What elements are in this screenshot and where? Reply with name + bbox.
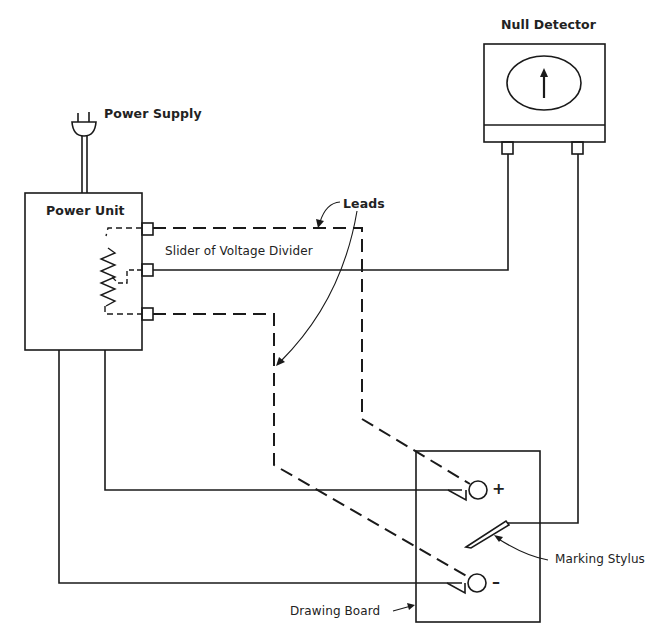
label-marking-stylus: Marking Stylus	[555, 552, 645, 566]
label-drawing-board: Drawing Board	[290, 604, 380, 618]
null-detector	[484, 44, 605, 154]
marking-stylus-icon	[466, 521, 509, 548]
detector-right-terminal	[572, 142, 583, 154]
minus-terminal	[468, 574, 486, 592]
label-leads: Leads	[343, 196, 385, 211]
voltage-divider-resistor	[101, 228, 142, 314]
detector-left-terminal	[502, 142, 513, 154]
lead-bottom-to-minus	[153, 314, 470, 578]
circuit-diagram	[0, 0, 665, 636]
leads-dashed	[153, 228, 470, 578]
label-power-supply: Power Supply	[104, 106, 202, 121]
plus-clip	[448, 490, 466, 500]
label-null-detector: Null Detector	[501, 17, 596, 32]
lead-top-to-plus	[153, 228, 470, 484]
detector-to-stylus-wire	[508, 154, 578, 523]
minus-sign: –	[492, 572, 500, 591]
drawing-board-box	[416, 451, 540, 622]
wire-to-minus	[59, 350, 462, 583]
label-power-unit: Power Unit	[46, 203, 125, 218]
terminal-slider	[142, 264, 153, 276]
minus-clip	[447, 583, 465, 593]
plus-sign: +	[492, 479, 505, 498]
wire-to-plus	[105, 350, 462, 490]
plus-terminal	[469, 481, 487, 499]
terminal-top	[142, 223, 153, 235]
label-slider-voltage-divider: Slider of Voltage Divider	[165, 244, 313, 258]
terminal-bottom	[142, 308, 153, 320]
power-plug-icon	[72, 112, 96, 193]
